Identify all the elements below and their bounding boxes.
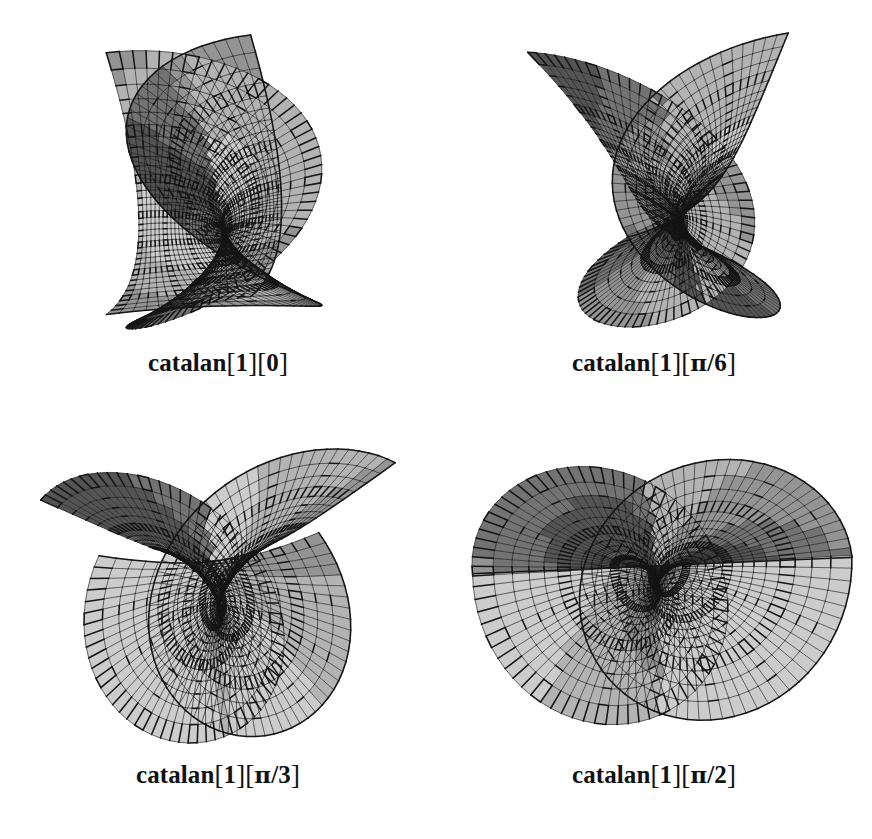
caption-bracket-close: ] — [727, 348, 736, 378]
caption-bracket-open: [ — [245, 760, 254, 790]
panel-caption: catalan[1][0] — [0, 348, 436, 378]
caption-surface-name: catalan — [148, 349, 226, 376]
caption-surface-name: catalan — [136, 761, 214, 788]
caption-surface-name: catalan — [572, 761, 650, 788]
surface-plot — [0, 0, 436, 340]
panel-caption: catalan[1][π/2] — [436, 760, 872, 790]
surface-plot — [436, 420, 872, 760]
surface-mesh — [528, 33, 788, 327]
caption-bracket-open: [ — [650, 348, 659, 378]
caption-bracket-close: ] — [672, 760, 681, 790]
caption-bracket-close: ] — [236, 760, 245, 790]
surface-mesh — [106, 35, 321, 329]
caption-bracket-close: ] — [291, 760, 300, 790]
figure-panel: catalan[1][π/3] — [0, 420, 436, 839]
caption-index-value: 1 — [224, 761, 237, 788]
caption-bracket-open: [ — [257, 348, 266, 378]
caption-index-value: 1 — [236, 349, 249, 376]
panel-caption: catalan[1][π/6] — [436, 348, 872, 378]
figure-panel: catalan[1][0] — [0, 0, 436, 419]
caption-pi-symbol: π — [690, 349, 707, 376]
caption-denominator: 2 — [714, 761, 727, 788]
caption-bracket-close: ] — [279, 348, 288, 378]
caption-bracket-open: [ — [650, 760, 659, 790]
caption-index-value: 1 — [660, 349, 673, 376]
surface-wireframe — [436, 420, 872, 760]
surface-wireframe — [0, 420, 436, 760]
surface-plot — [436, 0, 872, 340]
caption-index-value: 1 — [660, 761, 673, 788]
caption-bracket-open: [ — [681, 760, 690, 790]
surface-mesh — [41, 449, 395, 743]
caption-bracket-open: [ — [681, 348, 690, 378]
caption-bracket-open: [ — [214, 760, 223, 790]
catalan-associate-family-figure: catalan[1][0] catalan[1][π/6] catalan[1]… — [0, 0, 872, 839]
caption-denominator: 6 — [714, 349, 727, 376]
caption-bracket-close: ] — [672, 348, 681, 378]
caption-bracket-close: ] — [248, 348, 257, 378]
surface-wireframe — [436, 0, 872, 340]
caption-parameter: 0 — [266, 349, 279, 376]
panel-caption: catalan[1][π/3] — [0, 760, 436, 790]
surface-mesh — [472, 459, 852, 724]
caption-denominator: 3 — [278, 761, 291, 788]
caption-pi-symbol: π — [690, 761, 707, 788]
surface-wireframe — [0, 0, 436, 340]
caption-bracket-open: [ — [226, 348, 235, 378]
caption-pi-symbol: π — [254, 761, 271, 788]
figure-panel: catalan[1][π/6] — [436, 0, 872, 419]
caption-bracket-close: ] — [727, 760, 736, 790]
surface-plot — [0, 420, 436, 760]
caption-surface-name: catalan — [572, 349, 650, 376]
figure-panel: catalan[1][π/2] — [436, 420, 872, 839]
